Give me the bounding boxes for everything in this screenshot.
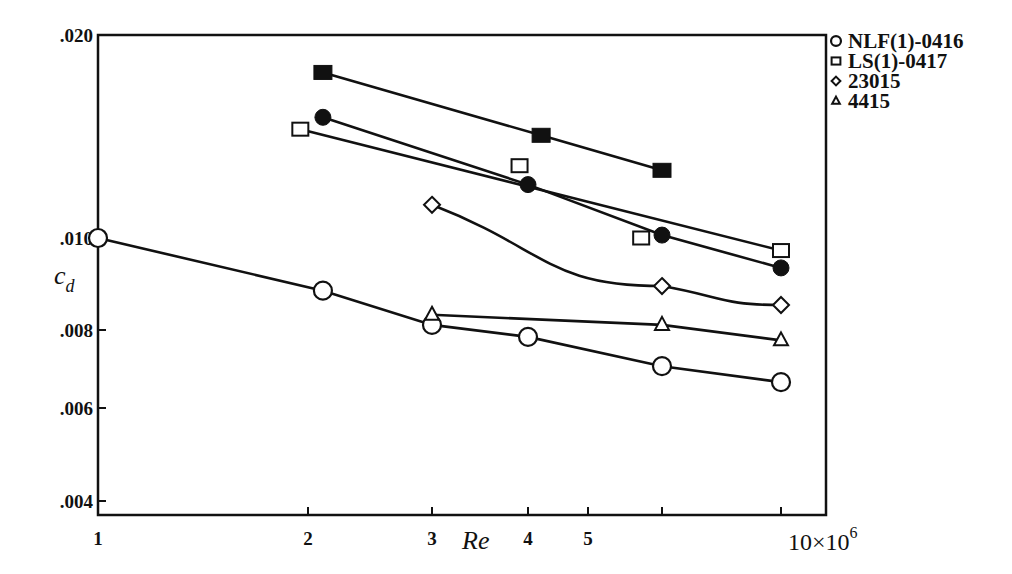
square-open-marker (512, 159, 528, 172)
square-filled-marker (653, 163, 671, 177)
diamond-open-marker (424, 197, 440, 213)
series-line (432, 205, 781, 305)
x-tick-label: 5 (583, 528, 593, 549)
x-axis-ticks: 12345 (93, 507, 781, 549)
x-axis-title: Re (461, 526, 489, 555)
square-open-marker (832, 57, 841, 64)
plot-frame (98, 35, 826, 515)
circle-filled-marker (654, 227, 670, 243)
diamond-open-marker (654, 278, 670, 294)
legend-label: 4415 (848, 89, 890, 113)
x-tick-label: 1 (93, 528, 103, 549)
diamond-open-marker (773, 297, 789, 313)
circle-open-marker (519, 328, 537, 346)
x-tick-label: 3 (427, 528, 437, 549)
x-tick-label: 4 (523, 528, 533, 549)
series-line (98, 238, 781, 382)
circle-open-marker (772, 373, 790, 391)
triangle-open-marker (425, 307, 439, 320)
y-axis-title-c: c (54, 261, 66, 290)
x-axis-multiplier: 10×106 (788, 524, 858, 555)
y-tick-label: .004 (60, 491, 94, 512)
triangle-open-marker (832, 97, 840, 104)
square-open-marker (773, 244, 789, 257)
y-tick-label: .008 (60, 320, 93, 341)
series-line (323, 117, 781, 268)
circle-open-marker (831, 36, 841, 46)
y-axis-title: cd (54, 261, 76, 296)
square-open-marker (292, 123, 308, 136)
diamond-open-marker (832, 77, 841, 86)
square-filled-marker (314, 65, 332, 79)
x-multiplier-base: 10×10 (788, 529, 850, 555)
circle-open-marker (653, 357, 671, 375)
circle-filled-marker (773, 260, 789, 276)
y-tick-label: .006 (60, 398, 93, 419)
y-axis-title-sub: d (66, 276, 76, 296)
circle-filled-marker (520, 177, 536, 193)
circle-filled-marker (315, 109, 331, 125)
drag-coefficient-chart: 12345 .020.010.008.006.004 cd Re 10×106 … (0, 0, 1012, 574)
x-tick-label: 2 (303, 528, 313, 549)
square-open-marker (633, 232, 649, 245)
series-markers (89, 65, 790, 391)
series-line (323, 72, 662, 170)
circle-open-marker (89, 229, 107, 247)
y-tick-label: .020 (60, 25, 93, 46)
x-multiplier-exponent: 6 (850, 524, 858, 541)
legend: NLF(1)-0416LS(1)-0417230154415 (831, 29, 963, 113)
legend-item: 4415 (832, 89, 890, 113)
series-lines (98, 72, 781, 382)
circle-open-marker (314, 282, 332, 300)
series-line (432, 315, 781, 341)
square-filled-marker (532, 128, 550, 142)
